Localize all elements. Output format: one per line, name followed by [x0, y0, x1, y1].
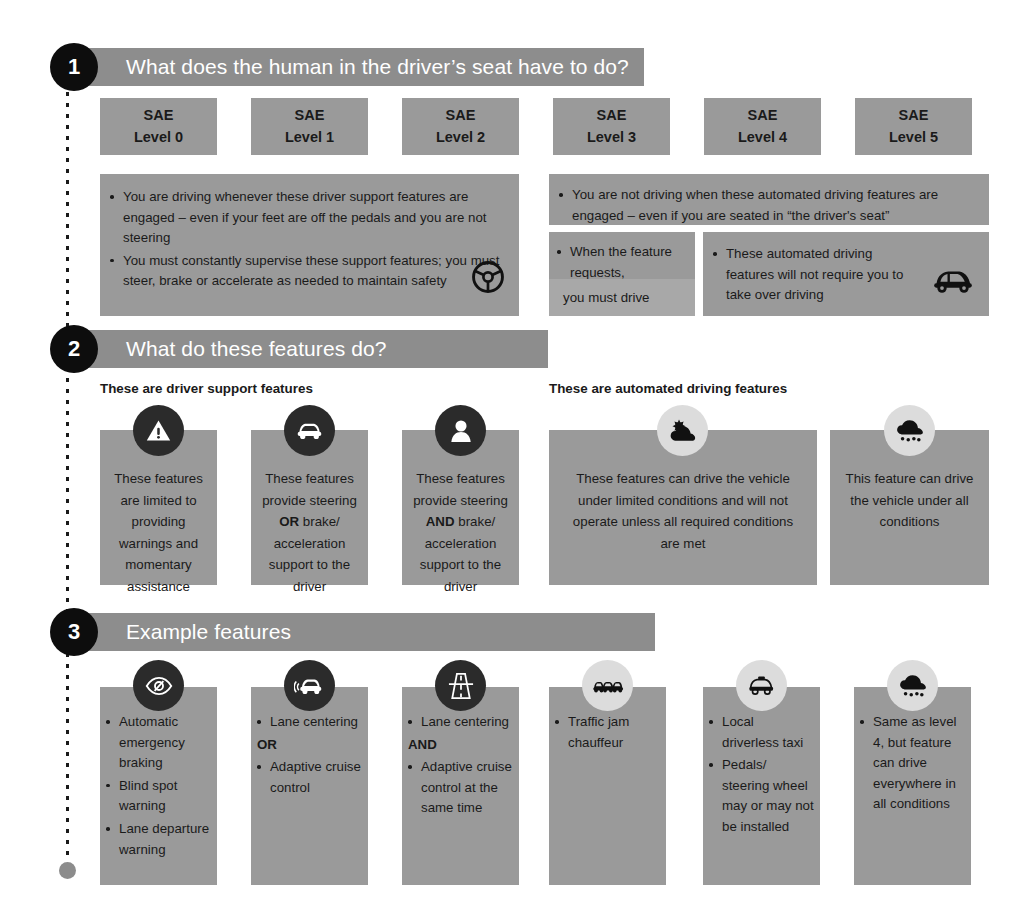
car-sensing-icon [284, 660, 335, 711]
section-3-card-0: Automatic emergency braking Blind spot w… [100, 687, 217, 885]
section-2-number: 2 [50, 325, 98, 373]
sae-label: SAE [748, 105, 778, 126]
section-2: What do these features do? 2 [0, 330, 1013, 368]
section-3-card-1: Lane centering OR Adaptive cruise contro… [251, 687, 368, 885]
sae-level-1-chip[interactable]: SAE Level 1 [251, 98, 368, 155]
section-3-card-5: Same as level 4, but feature can drive e… [854, 687, 971, 885]
sae-level-5-chip[interactable]: SAE Level 5 [855, 98, 972, 155]
list-item: Lane centering [406, 712, 513, 733]
section-1-number: 1 [50, 43, 98, 91]
sae-level: Level 3 [587, 127, 636, 148]
car-icon [931, 268, 975, 298]
sae-level-2-chip[interactable]: SAE Level 2 [402, 98, 519, 155]
sae-label: SAE [899, 105, 929, 126]
list-item: You are not driving when these automated… [557, 185, 973, 226]
section-3-card-2: Lane centering AND Adaptive cruise contr… [402, 687, 519, 885]
list-item: Automatic emergency braking [104, 712, 211, 774]
section-3-number: 3 [50, 608, 98, 656]
section-3-bar: Example features [88, 613, 655, 651]
list-item: Adaptive cruise control at the same time [406, 757, 513, 819]
section-1-driver-support-panel: You are driving whenever these driver su… [100, 174, 519, 316]
sae-label: SAE [446, 105, 476, 126]
list-item: These automated driving features will no… [711, 244, 919, 306]
card-text: These features can drive the vehicle und… [563, 468, 803, 554]
list-item: Blind spot warning [104, 776, 211, 817]
section-1-bar: What does the human in the driver’s seat… [88, 48, 644, 86]
level3-emphasis-text: you must drive [563, 288, 687, 309]
section-3-card-4: Local driverless taxi Pedals/ steering w… [703, 687, 820, 885]
card-text: These features provide steering OR brake… [257, 468, 362, 597]
sae-level-3-chip[interactable]: SAE Level 3 [553, 98, 670, 155]
sun-behind-cloud-icon [657, 405, 708, 456]
eye-slash-icon [133, 660, 184, 711]
sae-label: SAE [597, 105, 627, 126]
sae-label: SAE [144, 105, 174, 126]
connector-label: OR [257, 735, 362, 756]
list-item: Pedals/ steering wheel may or may not be… [707, 755, 814, 837]
sae-label: SAE [295, 105, 325, 126]
car-front-icon [284, 405, 335, 456]
infographic-canvas: What does the human in the driver’s seat… [0, 0, 1013, 920]
list-item: Traffic jam chauffeur [553, 712, 660, 753]
warning-triangle-icon [133, 405, 184, 456]
card-text: These features provide steering AND brak… [408, 468, 513, 597]
list-item: Lane centering [255, 712, 362, 733]
section-1-level3-emphasis-panel: you must drive [549, 279, 695, 316]
list-item: You must constantly supervise these supp… [108, 251, 503, 292]
timeline-rail [66, 70, 69, 862]
section-1: What does the human in the driver’s seat… [0, 48, 1013, 86]
list-item: Same as level 4, but feature can drive e… [858, 712, 965, 815]
sae-level: Level 1 [285, 127, 334, 148]
snow-cloud-icon [884, 405, 935, 456]
sae-level: Level 5 [889, 127, 938, 148]
section-1-automated-panel: You are not driving when these automated… [549, 174, 989, 225]
sae-level-4-chip[interactable]: SAE Level 4 [704, 98, 821, 155]
list-item: Lane departure warning [104, 819, 211, 860]
section-3: Example features 3 [0, 613, 1013, 651]
list-item: When the feature requests, [555, 242, 687, 283]
list-item: You are driving whenever these driver su… [108, 187, 503, 249]
section-3-card-3: Traffic jam chauffeur [549, 687, 666, 885]
section-1-level45-panel: These automated driving features will no… [703, 232, 989, 316]
connector-label: AND [408, 735, 513, 756]
sae-level: Level 2 [436, 127, 485, 148]
section-3-title: Example features [88, 620, 291, 644]
section-1-level3-panel: When the feature requests, you must driv… [549, 232, 695, 316]
sae-level: Level 4 [738, 127, 787, 148]
section-2-bar: What do these features do? [88, 330, 548, 368]
snow-cloud-icon [887, 660, 938, 711]
section-2-subhead-right: These are automated driving features [549, 381, 787, 396]
card-text: These features are limited to providing … [106, 468, 211, 597]
section-2-subhead-left: These are driver support features [100, 381, 313, 396]
steering-wheel-icon [471, 260, 505, 298]
list-item: Local driverless taxi [707, 712, 814, 753]
highway-icon [435, 660, 486, 711]
sae-level: Level 0 [134, 127, 183, 148]
sae-level-0-chip[interactable]: SAE Level 0 [100, 98, 217, 155]
section-2-title: What do these features do? [88, 337, 387, 361]
person-icon [435, 405, 486, 456]
section-1-title: What does the human in the driver’s seat… [88, 55, 629, 79]
card-text: This feature can drive the vehicle under… [840, 468, 979, 533]
taxi-icon [736, 660, 787, 711]
traffic-jam-icon [582, 660, 633, 711]
timeline-end-dot [59, 862, 76, 879]
list-item: Adaptive cruise control [255, 757, 362, 798]
